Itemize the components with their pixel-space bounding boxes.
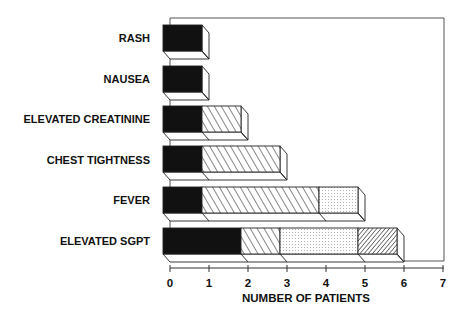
tick-label-6: 6 (401, 277, 407, 289)
bar-segment (163, 25, 202, 51)
tick-label-1: 1 (206, 277, 213, 289)
category-label-nausea: NAUSEA (104, 73, 151, 85)
bars (163, 25, 404, 262)
bar-segment (163, 228, 241, 254)
category-label-fever: FEVER (113, 194, 150, 206)
bar-segment (280, 228, 358, 254)
x-axis-title: NUMBER OF PATIENTS (242, 292, 370, 304)
bar-segment (241, 228, 280, 254)
category-label-elevated-creatinine: ELEVATED CREATININE (23, 113, 150, 125)
chart: RASH NAUSEA ELEVATED CREATININE CHEST TI… (0, 0, 461, 317)
bar-rash (163, 25, 209, 59)
bar-segment (202, 187, 319, 213)
bar-segment (163, 66, 202, 92)
bar-segment (358, 228, 397, 254)
bar-segment (202, 106, 241, 132)
tick-label-0: 0 (167, 277, 173, 289)
tick-label-2: 2 (245, 277, 251, 289)
bar-fever (163, 187, 365, 221)
category-labels: RASH NAUSEA ELEVATED CREATININE CHEST TI… (23, 32, 150, 247)
tick-label-4: 4 (323, 277, 330, 289)
x-axis: 0 1 2 3 4 5 6 7 NUMBER OF PATIENTS (167, 265, 446, 304)
bar-nausea (163, 66, 209, 100)
bar-elevated-creatinine (163, 106, 248, 140)
bar-segment (163, 106, 202, 132)
bar-elevated-sgpt (163, 228, 404, 262)
tick-label-7: 7 (440, 277, 446, 289)
bar-segment (319, 187, 358, 213)
tick-label-3: 3 (284, 277, 290, 289)
category-label-chest-tightness: CHEST TIGHTNESS (47, 154, 150, 166)
bar-chest-tightness (163, 146, 287, 180)
bar-segment (202, 146, 280, 172)
tick-label-5: 5 (362, 277, 369, 289)
category-label-elevated-sgpt: ELEVATED SGPT (60, 235, 150, 247)
bar-segment (163, 146, 202, 172)
category-label-rash: RASH (119, 32, 150, 44)
bar-segment (163, 187, 202, 213)
